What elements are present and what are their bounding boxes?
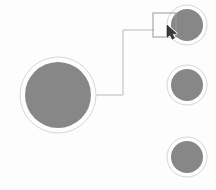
child-node-3[interactable] <box>167 137 207 177</box>
root-node[interactable] <box>20 57 96 133</box>
child-node-3-fill[interactable] <box>171 141 203 173</box>
child-node-2-fill[interactable] <box>171 69 203 101</box>
root-node-fill[interactable] <box>25 62 91 128</box>
child-node-2[interactable] <box>167 65 207 105</box>
graph-svg-surface[interactable] <box>0 0 216 190</box>
node-graph-canvas[interactable] <box>0 0 216 190</box>
